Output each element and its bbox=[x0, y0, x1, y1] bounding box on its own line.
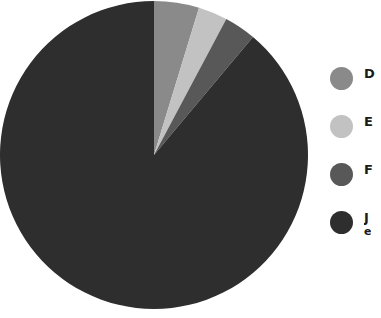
pie-chart-canvas bbox=[0, 0, 318, 318]
legend-item-j[interactable]: Je bbox=[330, 210, 371, 244]
legend-swatch-icon bbox=[330, 67, 353, 90]
legend-item-d[interactable]: D bbox=[330, 66, 375, 100]
legend-item-e[interactable]: E bbox=[330, 114, 373, 148]
legend-swatch-icon bbox=[330, 211, 353, 234]
legend-swatch-icon bbox=[330, 115, 353, 138]
chart-legend: DEFJe bbox=[330, 66, 381, 266]
pie-slice-j[interactable] bbox=[0, 1, 308, 309]
legend-swatch-icon bbox=[330, 163, 353, 186]
legend-label: E bbox=[364, 114, 373, 129]
legend-label: F bbox=[364, 162, 373, 177]
pie-slice-group bbox=[0, 1, 308, 309]
legend-label: D bbox=[364, 66, 375, 81]
legend-label-line2: e bbox=[364, 225, 371, 239]
legend-item-f[interactable]: F bbox=[330, 162, 373, 196]
pie-chart-figure: DEFJe bbox=[0, 0, 381, 318]
legend-label: Je bbox=[364, 210, 371, 239]
